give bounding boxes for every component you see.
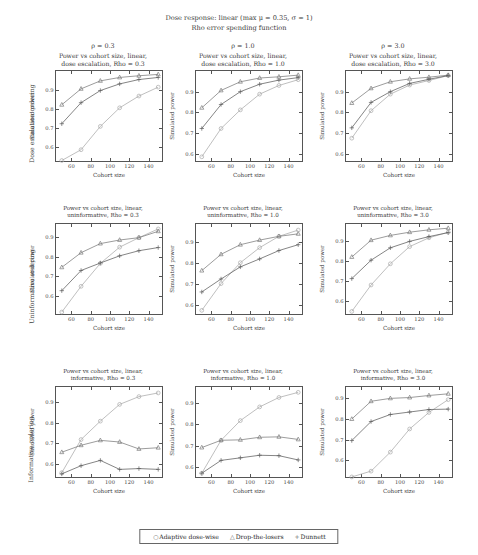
legend-label-dunnett: Dunnett — [301, 533, 326, 540]
series-line-dunnett — [202, 78, 298, 129]
x-tick-label: 120 — [414, 479, 424, 485]
y-tick-label: 0.8 — [335, 258, 343, 264]
legend-entry-drop-the-losers: △Drop-the-losers — [229, 533, 284, 540]
x-axis-label: Cohort size — [345, 325, 453, 331]
x-tick-label: 60 — [68, 479, 75, 485]
data-point-plus — [238, 456, 242, 460]
data-point-plus — [137, 466, 141, 470]
series-line-adaptive-dose-wise — [352, 400, 448, 477]
x-tick-label: 120 — [414, 316, 424, 322]
x-tick-label: 60 — [208, 163, 215, 169]
panel-title-line-1: Power vs cohort size, linear, — [318, 368, 468, 375]
data-point-plus — [257, 82, 261, 86]
x-tick-label: 60 — [68, 316, 75, 322]
axes-frame: 0.60.70.80.96080100120140 — [345, 386, 453, 478]
y-axis-label-text: Simulated power — [319, 408, 325, 455]
series-line-dunnett — [62, 460, 158, 473]
x-tick-label: 60 — [208, 316, 215, 322]
legend-entry-adaptive-dose-wise: ○Adaptive dose-wise — [152, 533, 218, 540]
x-tick-label: 120 — [414, 163, 424, 169]
x-tick-label: 120 — [264, 479, 274, 485]
y-tick-label: 0.7 — [185, 130, 193, 136]
x-tick-label: 140 — [434, 316, 444, 322]
y-axis-label: Simulated power — [317, 70, 327, 162]
y-tick-label: 0.7 — [335, 278, 343, 284]
x-tick-label: 120 — [124, 316, 134, 322]
data-point-triangle — [388, 396, 392, 400]
y-tick-label: 0.8 — [185, 421, 193, 427]
figure-suptitle: Dose response: linear (max μ = 0.35, σ =… — [0, 14, 478, 33]
panel-title: Power vs cohort size, linear,uninformati… — [168, 205, 318, 220]
panel-title-line-1: Power vs cohort size, linear, — [28, 205, 178, 212]
data-point-plus — [117, 467, 121, 471]
column-header-2: ρ = 1.0Power vs cohort size, linear,dose… — [168, 42, 318, 69]
data-point-plus — [137, 77, 141, 81]
series-line-dunnett — [62, 248, 158, 291]
x-tick-label: 100 — [245, 479, 255, 485]
panel-r1c2: Power vs cohort size, linear,uninformati… — [318, 205, 468, 368]
y-axis-label-text: Simulated power — [29, 92, 35, 139]
panel-r1c1: Power vs cohort size, linear,uninformati… — [168, 205, 318, 368]
panel-title-line-1: Power vs cohort size, linear, — [28, 52, 178, 61]
x-tick-label: 120 — [264, 316, 274, 322]
y-tick-label: 0.8 — [45, 254, 53, 260]
y-axis-label: Simulated power — [27, 70, 37, 162]
x-tick-label: 140 — [434, 163, 444, 169]
panel-r0c0: ρ = 0.3Power vs cohort size, linear,dose… — [28, 42, 178, 205]
x-tick-label: 80 — [377, 163, 384, 169]
suptitle-line-1: Dose response: linear (max μ = 0.35, σ =… — [0, 14, 478, 24]
series-line-adaptive-dose-wise — [202, 80, 298, 157]
y-tick-label: 0.9 — [45, 87, 53, 93]
y-tick-label: 0.8 — [185, 260, 193, 266]
x-tick-label: 140 — [434, 479, 444, 485]
y-tick-label: 0.8 — [45, 106, 53, 112]
series-layer — [346, 224, 454, 316]
figure-legend: ○Adaptive dose-wise △Drop-the-losers +Du… — [139, 529, 338, 544]
figure-root: Dose response: linear (max μ = 0.35, σ =… — [0, 0, 478, 555]
data-point-plus — [117, 254, 121, 258]
data-point-circle — [350, 310, 354, 314]
series-layer — [56, 224, 164, 316]
x-axis-label: Cohort size — [195, 325, 303, 331]
panel-title-line-2: informative, Rho = 1.0 — [168, 375, 318, 382]
data-point-triangle — [296, 232, 300, 236]
column-rho-label: ρ = 3.0 — [318, 42, 468, 51]
x-tick-label: 140 — [284, 316, 294, 322]
series-layer — [196, 224, 304, 316]
y-tick-label: 0.8 — [335, 109, 343, 115]
data-point-triangle — [446, 392, 450, 396]
x-tick-label: 80 — [87, 479, 94, 485]
x-axis-label: Cohort size — [55, 172, 163, 178]
x-tick-label: 80 — [227, 479, 234, 485]
y-tick-label: 0.6 — [335, 298, 343, 304]
x-tick-label: 100 — [105, 163, 115, 169]
x-axis-label: Cohort size — [345, 172, 453, 178]
x-tick-label: 100 — [245, 163, 255, 169]
series-line-drop-the-losers — [62, 440, 158, 452]
panel-title-line-2: uninformative, Rho = 0.3 — [28, 212, 178, 219]
x-axis-label: Cohort size — [345, 488, 453, 494]
y-tick-label: 0.6 — [45, 461, 53, 467]
series-line-drop-the-losers — [352, 394, 448, 419]
x-tick-label: 120 — [124, 479, 134, 485]
y-axis-label-text: Simulated power — [169, 245, 175, 292]
legend-entry-dunnett: +Dunnett — [294, 533, 326, 540]
x-tick-label: 100 — [105, 316, 115, 322]
data-point-plus — [219, 277, 223, 281]
y-tick-label: 0.7 — [45, 125, 53, 131]
x-tick-label: 100 — [395, 479, 405, 485]
axes-frame: 0.60.70.80.96080100120140 — [55, 386, 163, 478]
data-point-circle — [60, 310, 64, 314]
y-tick-label: 0.9 — [185, 239, 193, 245]
panel-title: Power vs cohort size, linear,uninformati… — [318, 205, 468, 220]
data-point-plus — [296, 243, 300, 247]
x-tick-label: 60 — [68, 163, 75, 169]
y-tick-label: 0.7 — [45, 273, 53, 279]
y-axis-label-text: Simulated power — [169, 92, 175, 139]
x-axis-label: Cohort size — [195, 172, 303, 178]
y-tick-label: 0.6 — [185, 151, 193, 157]
column-header-1: ρ = 0.3Power vs cohort size, linear,dose… — [28, 42, 178, 69]
x-tick-label: 80 — [377, 479, 384, 485]
panel-title-line-2: uninformative, Rho = 1.0 — [168, 212, 318, 219]
series-line-drop-the-losers — [202, 437, 298, 448]
